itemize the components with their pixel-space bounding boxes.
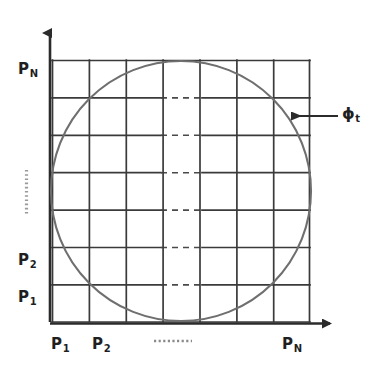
x-axis-label-p1: P1 xyxy=(51,337,69,352)
axis-group xyxy=(50,33,330,324)
y-axis-label-pn-subscript: N xyxy=(30,68,39,79)
y-axis-label-p1-subscript: 1 xyxy=(30,296,37,307)
y-axis-label-p1-base: P xyxy=(18,288,29,306)
y-axis-label-p2-subscript: 2 xyxy=(30,259,37,270)
x-axis-label-pn-base: P xyxy=(282,335,293,353)
x-axis-label-p1-base: P xyxy=(51,335,62,353)
phi-t-label: ϕt xyxy=(342,106,360,122)
grid-vertical-lines xyxy=(53,60,310,322)
grid-dashed-segments xyxy=(161,98,202,285)
figure-canvas xyxy=(0,0,372,374)
grid-horizontal-lines xyxy=(52,61,310,323)
y-axis-label-p2: P2 xyxy=(18,253,36,268)
y-axis-label-p1: P1 xyxy=(18,290,36,305)
x-axis-label-pn-subscript: N xyxy=(294,343,303,354)
x-axis-label-pn: PN xyxy=(282,337,302,352)
x-axis-label-p2: P2 xyxy=(92,337,110,352)
y-axis-label-p2-base: P xyxy=(18,251,29,269)
phi-t-label-subscript: t xyxy=(355,113,360,124)
x-axis-label-p2-subscript: 2 xyxy=(104,343,111,354)
phi-t-label-base: ϕ xyxy=(342,104,355,123)
x-axis-label-p1-subscript: 1 xyxy=(63,343,70,354)
y-axis-label-pn: PN xyxy=(18,62,38,77)
figure-root: PN P2 P1 P1 P2 PN ϕt xyxy=(0,0,372,374)
y-axis-label-pn-base: P xyxy=(18,60,29,78)
x-axis-label-p2-base: P xyxy=(92,335,103,353)
grid-group xyxy=(52,60,310,322)
